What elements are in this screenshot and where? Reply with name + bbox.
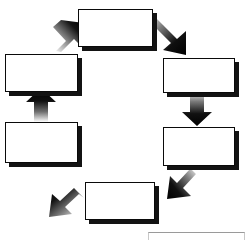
partial-box-clipped[interactable] xyxy=(148,232,245,240)
cycle-node-bottom[interactable] xyxy=(85,182,155,220)
cycle-node-top[interactable] xyxy=(78,9,153,47)
cycle-diagram xyxy=(0,0,245,240)
cycle-node-lower-right[interactable] xyxy=(163,127,235,166)
cycle-node-lower-left[interactable] xyxy=(5,122,78,163)
cycle-node-upper-left[interactable] xyxy=(5,54,78,92)
cycle-node-upper-right[interactable] xyxy=(163,58,235,93)
arrow-bottom-to-lower-left xyxy=(49,188,84,217)
